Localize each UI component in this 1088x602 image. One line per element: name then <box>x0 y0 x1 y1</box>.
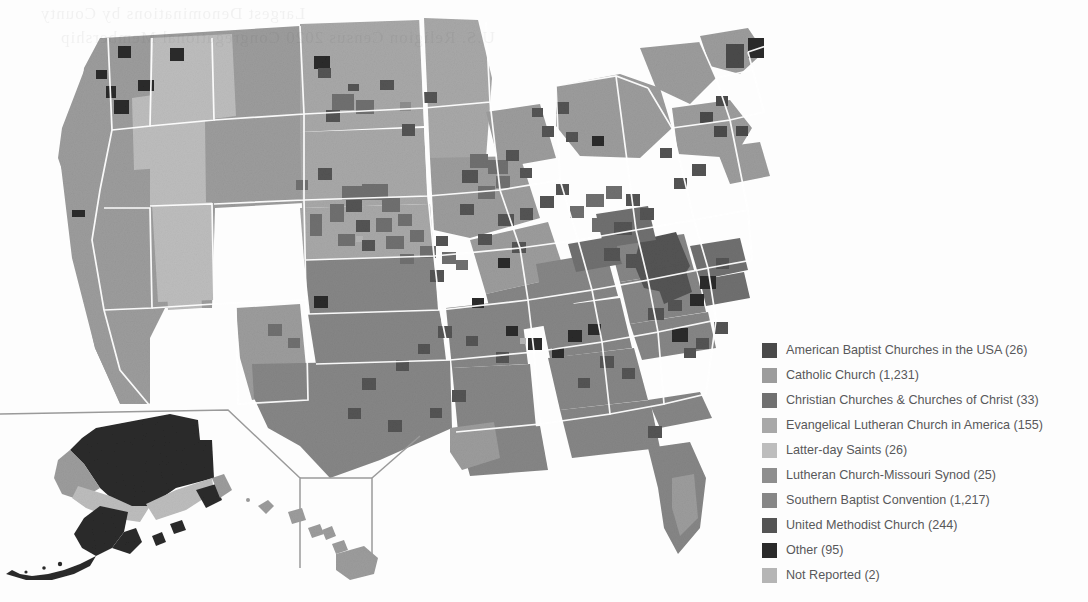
legend-swatch-united-methodist <box>762 518 777 533</box>
legend-item-united-methodist[interactable]: United Methodist Church (244) <box>762 513 1082 538</box>
legend-label-southern-baptist: Southern Baptist Convention (1,217) <box>786 493 990 508</box>
legend-item-southern-baptist[interactable]: Southern Baptist Convention (1,217) <box>762 488 1082 513</box>
legend-item-other[interactable]: Other (95) <box>762 538 1082 563</box>
map-legend: American Baptist Churches in the USA (26… <box>762 338 1082 588</box>
legend-item-catholic-church[interactable]: Catholic Church (1,231) <box>762 363 1082 388</box>
legend-item-latter-day-saints[interactable]: Latter-day Saints (26) <box>762 438 1082 463</box>
legend-swatch-not-reported <box>762 568 777 583</box>
legend-swatch-elca <box>762 418 777 433</box>
legend-swatch-southern-baptist <box>762 493 777 508</box>
legend-label-latter-day-saints: Latter-day Saints (26) <box>786 443 907 458</box>
hawaii-inset <box>246 498 378 580</box>
legend-swatch-latter-day-saints <box>762 443 777 458</box>
legend-swatch-lcms <box>762 468 777 483</box>
legend-swatch-christian-churches <box>762 393 777 408</box>
legend-item-elca[interactable]: Evangelical Lutheran Church in America (… <box>762 413 1082 438</box>
legend-swatch-catholic-church <box>762 368 777 383</box>
legend-label-lcms: Lutheran Church-Missouri Synod (25) <box>786 468 996 483</box>
legend-label-not-reported: Not Reported (2) <box>786 568 880 583</box>
legend-label-catholic-church: Catholic Church (1,231) <box>786 368 919 383</box>
legend-item-not-reported[interactable]: Not Reported (2) <box>762 563 1082 588</box>
legend-item-lcms[interactable]: Lutheran Church-Missouri Synod (25) <box>762 463 1082 488</box>
us-denomination-choropleth-map: American Baptist Churches in the USA (26… <box>0 0 1088 602</box>
us-map-graphic <box>0 8 790 593</box>
legend-label-american-baptist: American Baptist Churches in the USA (26… <box>786 343 1028 358</box>
legend-label-other: Other (95) <box>786 543 843 558</box>
legend-label-elca: Evangelical Lutheran Church in America (… <box>786 418 1043 433</box>
legend-swatch-other <box>762 543 777 558</box>
legend-label-christian-churches: Christian Churches & Churches of Christ … <box>786 393 1039 408</box>
legend-label-united-methodist: United Methodist Church (244) <box>786 518 958 533</box>
alaska-inset <box>6 414 232 580</box>
legend-item-american-baptist[interactable]: American Baptist Churches in the USA (26… <box>762 338 1082 363</box>
legend-item-christian-churches[interactable]: Christian Churches & Churches of Christ … <box>762 388 1082 413</box>
legend-swatch-american-baptist <box>762 343 777 358</box>
